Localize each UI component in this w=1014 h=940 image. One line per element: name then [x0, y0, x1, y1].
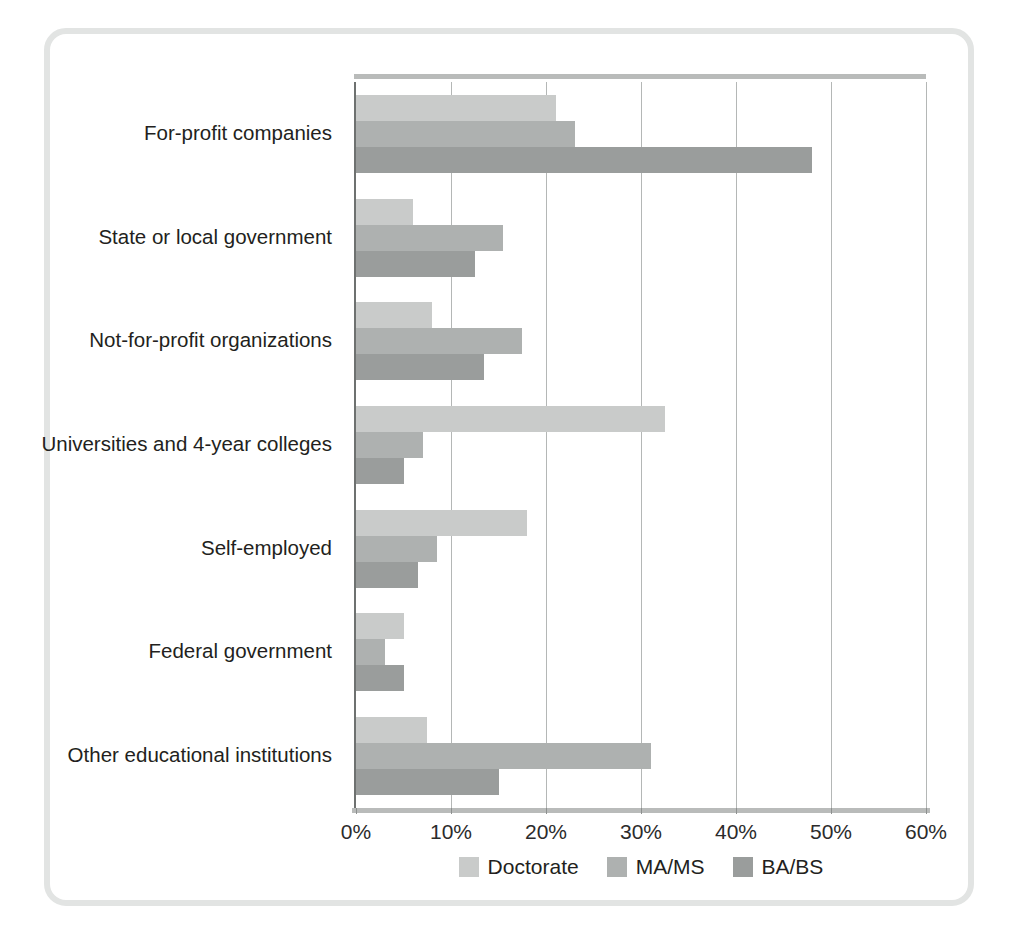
bar — [356, 562, 418, 588]
bar — [356, 639, 385, 665]
category-label: Federal government — [0, 639, 332, 663]
category-label: Self-employed — [0, 536, 332, 560]
bar — [356, 536, 437, 562]
x-tick — [736, 808, 737, 814]
bar-group: For-profit companies — [356, 82, 926, 186]
bar — [356, 95, 556, 121]
x-tick-label: 10% — [430, 820, 472, 844]
x-tick — [451, 808, 452, 814]
category-label: For-profit companies — [0, 121, 332, 145]
bar-chart: 0%10%20%30%40%50%60% For-profit companie… — [0, 0, 1014, 940]
bar — [356, 302, 432, 328]
legend-item[interactable]: BA/BS — [733, 855, 824, 879]
bar — [356, 328, 522, 354]
x-tick — [546, 808, 547, 814]
x-tick — [831, 808, 832, 814]
legend-label: MA/MS — [636, 855, 705, 879]
gridline-60% — [926, 82, 927, 808]
bar-group: Federal government — [356, 601, 926, 705]
x-tick — [926, 808, 927, 814]
category-label: Other educational institutions — [0, 743, 332, 767]
category-label: Universities and 4-year colleges — [0, 432, 332, 456]
plot-top-border — [354, 74, 926, 79]
bar — [356, 406, 665, 432]
bar — [356, 354, 484, 380]
chart-legend: DoctorateMA/MSBA/BS — [356, 855, 926, 879]
bar — [356, 717, 427, 743]
legend-label: Doctorate — [488, 855, 579, 879]
chart-page: 0%10%20%30%40%50%60% For-profit companie… — [0, 0, 1014, 940]
bar-group: Universities and 4-year colleges — [356, 393, 926, 497]
bar — [356, 743, 651, 769]
bar-group: Other educational institutions — [356, 704, 926, 808]
bar-group: Self-employed — [356, 497, 926, 601]
legend-swatch-icon — [733, 857, 753, 877]
bar — [356, 432, 423, 458]
plot-area: 0%10%20%30%40%50%60% For-profit companie… — [356, 82, 926, 808]
x-tick-label: 0% — [341, 820, 371, 844]
bar — [356, 251, 475, 277]
legend-item[interactable]: Doctorate — [459, 855, 579, 879]
bar — [356, 458, 404, 484]
bar — [356, 613, 404, 639]
bar — [356, 121, 575, 147]
bar — [356, 199, 413, 225]
bar — [356, 769, 499, 795]
legend-swatch-icon — [607, 857, 627, 877]
legend-swatch-icon — [459, 857, 479, 877]
category-label: Not-for-profit organizations — [0, 328, 332, 352]
bar — [356, 147, 812, 173]
bar-group: Not-for-profit organizations — [356, 289, 926, 393]
x-tick-label: 50% — [810, 820, 852, 844]
legend-item[interactable]: MA/MS — [607, 855, 705, 879]
bar — [356, 510, 527, 536]
legend-label: BA/BS — [762, 855, 824, 879]
bar — [356, 225, 503, 251]
x-tick-label: 20% — [525, 820, 567, 844]
x-tick-label: 60% — [905, 820, 947, 844]
x-tick — [356, 808, 357, 814]
bar-group: State or local government — [356, 186, 926, 290]
x-tick — [641, 808, 642, 814]
category-label: State or local government — [0, 225, 332, 249]
x-tick-label: 30% — [620, 820, 662, 844]
x-tick-label: 40% — [715, 820, 757, 844]
bar — [356, 665, 404, 691]
